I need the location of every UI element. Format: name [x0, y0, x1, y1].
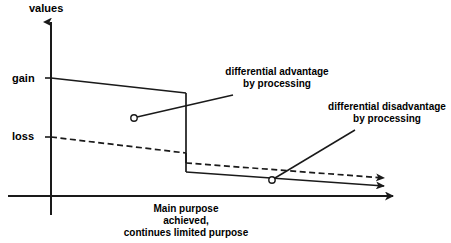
caption-line3: continues limited purpose	[107, 227, 265, 239]
callout-advantage-marker	[131, 115, 137, 121]
callout-advantage-leader	[137, 95, 233, 117]
annotation-disadvantage-line2: by processing	[327, 113, 447, 125]
gain-curve-pre-step	[51, 78, 186, 93]
annotation-differential-disadvantage: differential disadvantage by processing	[327, 101, 447, 125]
loss-curve-post-step	[186, 163, 384, 178]
callout-disadvantage-leader	[275, 130, 355, 178]
figure-container: values gain loss differential advantage …	[0, 0, 451, 243]
caption-line1: Main purpose	[107, 203, 265, 215]
y-axis-title: values	[29, 2, 63, 15]
figure-caption: Main purpose achieved, continues limited…	[107, 203, 265, 238]
annotation-advantage-line1: differential advantage	[221, 66, 333, 78]
annotation-differential-advantage: differential advantage by processing	[221, 66, 333, 90]
y-label-gain: gain	[12, 72, 35, 85]
caption-line2: achieved,	[107, 215, 265, 227]
gain-curve-post-step	[186, 172, 384, 186]
annotation-disadvantage-line1: differential disadvantage	[327, 101, 447, 113]
y-label-loss: loss	[12, 130, 34, 143]
annotation-advantage-line2: by processing	[221, 78, 333, 90]
callout-disadvantage-marker	[269, 177, 275, 183]
loss-curve-pre-step	[51, 137, 186, 153]
